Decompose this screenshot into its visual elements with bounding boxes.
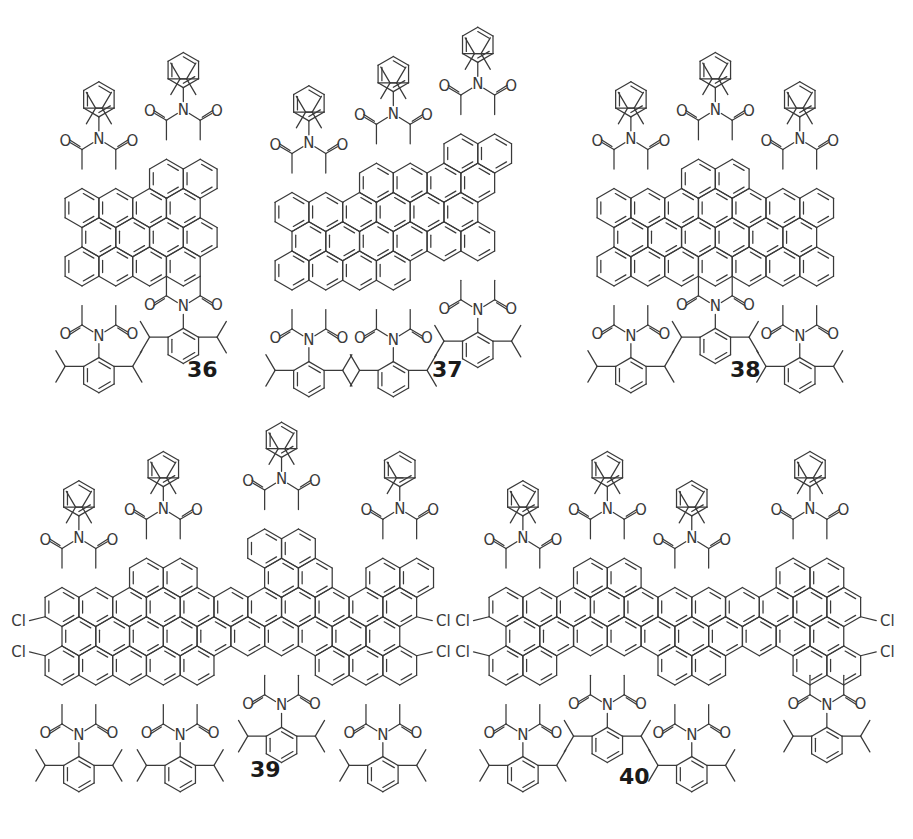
svg-text:O: O [771,501,783,519]
svg-text:O: O [270,329,282,347]
svg-text:N: N [377,726,388,744]
svg-text:O: O [336,329,348,347]
svg-text:N: N [394,500,405,518]
compound-39: NOONOONOONOONOONOONOONOOClClClCl [11,422,450,792]
svg-text:O: O [106,724,118,742]
svg-text:O: O [354,329,366,347]
svg-text:N: N [178,297,189,315]
compound-36: NOONOONOONOO [56,52,226,392]
svg-text:N: N [73,726,84,744]
svg-text:O: O [658,132,670,150]
svg-text:O: O [719,724,731,742]
svg-text:O: O [652,531,664,549]
svg-text:O: O [438,300,450,318]
svg-text:O: O [106,531,118,549]
compound-37: NOONOONOONOONOONOO [266,27,521,397]
svg-text:N: N [710,101,721,119]
compound-label-36: 36 [187,357,218,382]
svg-text:N: N [276,470,287,488]
svg-text:O: O [421,329,433,347]
svg-text:N: N [93,327,104,345]
svg-text:O: O [360,501,372,519]
svg-text:N: N [517,529,528,547]
svg-text:O: O [60,325,72,343]
svg-text:N: N [602,696,613,714]
svg-text:O: O [427,501,439,519]
svg-text:N: N [710,297,721,315]
svg-text:O: O [208,724,220,742]
svg-text:O: O [211,296,223,314]
svg-text:N: N [472,75,483,93]
svg-text:O: O [652,724,664,742]
svg-text:O: O [270,136,282,154]
svg-text:O: O [141,724,153,742]
svg-text:O: O [484,531,496,549]
svg-text:N: N [303,134,314,152]
svg-text:O: O [211,102,223,120]
svg-text:O: O [505,300,517,318]
svg-text:Cl: Cl [880,643,895,661]
svg-text:O: O [484,724,496,742]
svg-text:Cl: Cl [436,612,451,630]
svg-text:N: N [625,130,636,148]
svg-text:O: O [60,132,72,150]
svg-text:O: O [854,695,866,713]
chemical-structures-figure: NOONOONOONOO NOONOONOONOONOONOO NOONOONO… [0,0,913,839]
svg-text:O: O [827,325,839,343]
compound-40: NOONOONOONOONOONOONOONOOClClClCl [455,451,894,791]
svg-text:O: O [309,695,321,713]
svg-text:N: N [158,500,169,518]
svg-text:O: O [144,296,156,314]
svg-text:N: N [73,529,84,547]
svg-text:N: N [303,331,314,349]
svg-text:N: N [517,726,528,744]
svg-text:Cl: Cl [436,643,451,661]
svg-text:N: N [388,331,399,349]
svg-text:O: O [635,695,647,713]
svg-text:N: N [794,130,805,148]
svg-text:O: O [144,102,156,120]
svg-text:O: O [635,501,647,519]
svg-text:O: O [126,325,138,343]
svg-text:O: O [410,724,422,742]
compound-label-37: 37 [432,357,463,382]
svg-text:O: O [760,325,772,343]
svg-text:O: O [336,136,348,154]
svg-text:O: O [760,132,772,150]
svg-text:N: N [686,726,697,744]
svg-text:N: N [804,500,815,518]
compound-label-39: 39 [250,757,281,782]
svg-text:O: O [743,296,755,314]
svg-text:O: O [126,132,138,150]
svg-text:O: O [40,724,52,742]
svg-text:Cl: Cl [455,612,470,630]
svg-text:Cl: Cl [11,643,26,661]
svg-text:O: O [592,132,604,150]
svg-text:O: O [827,132,839,150]
svg-text:O: O [568,695,580,713]
svg-text:Cl: Cl [11,612,26,630]
svg-text:O: O [550,531,562,549]
svg-text:O: O [438,77,450,95]
svg-text:N: N [794,327,805,345]
svg-text:O: O [719,531,731,549]
svg-text:O: O [343,724,355,742]
svg-text:O: O [676,296,688,314]
svg-text:N: N [276,696,287,714]
svg-text:O: O [40,531,52,549]
svg-text:O: O [676,102,688,120]
svg-text:Cl: Cl [455,643,470,661]
svg-text:O: O [354,106,366,124]
svg-text:O: O [309,472,321,490]
svg-text:Cl: Cl [880,612,895,630]
compound-label-40: 40 [619,764,650,789]
svg-text:O: O [838,501,850,519]
svg-text:O: O [421,106,433,124]
svg-text:N: N [686,529,697,547]
svg-text:N: N [602,500,613,518]
compound-38: NOONOONOONOONOONOO [588,52,843,392]
svg-text:N: N [175,726,186,744]
svg-text:O: O [568,501,580,519]
svg-text:N: N [821,696,832,714]
svg-text:O: O [743,102,755,120]
